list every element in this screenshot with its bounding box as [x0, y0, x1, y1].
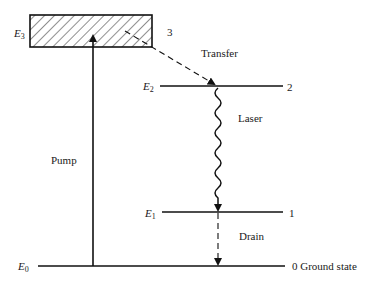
level-2-number: 2	[287, 81, 293, 93]
level-1-number: 1	[289, 207, 295, 219]
transfer-label: Transfer	[201, 47, 238, 59]
ground-state-label: 0 Ground state	[292, 260, 357, 272]
drain-label: Drain	[239, 230, 264, 242]
pump-label: Pump	[51, 154, 77, 166]
e3-band	[30, 15, 152, 47]
laser-label: Laser	[238, 112, 262, 124]
e3-label: E3	[14, 27, 25, 43]
e0-label: E0	[18, 260, 29, 276]
laser-wavy-arrow	[215, 88, 221, 210]
e2-label: E2	[143, 80, 154, 96]
e1-label: E1	[145, 207, 156, 223]
level-3-number: 3	[167, 26, 173, 38]
energy-level-diagram	[0, 0, 367, 284]
